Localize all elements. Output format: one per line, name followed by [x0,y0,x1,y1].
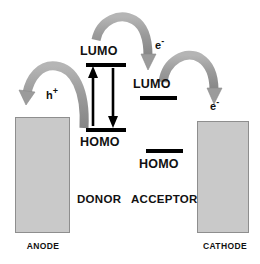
acceptor-lumo-level-line [140,96,177,100]
anode-electrode-block [15,117,70,233]
hole-symbol: h [46,89,53,101]
cathode-label: CATHODE [190,241,260,251]
cathode-electrode-block [197,121,249,233]
electron-charge-1: - [161,36,164,46]
electron-carrier-label-2: e- [210,97,219,112]
straight-arrow-excitation-up [88,66,98,126]
anode-label: ANODE [8,241,78,251]
acceptor-layer-label: ACCEPTOR [131,193,198,205]
donor-lumo-level-line [86,63,126,67]
straight-arrow-recombination-down [108,68,118,128]
acceptor-homo-label: HOMO [139,157,179,171]
energy-level-diagram: LUMO HOMO LUMO HOMO DONOR ACCEPTOR h+ e-… [0,0,260,264]
hole-charge: + [53,86,58,96]
acceptor-lumo-label: LUMO [133,77,171,91]
acceptor-homo-level-line [146,149,183,153]
donor-layer-label: DONOR [77,193,121,205]
donor-homo-level-line [86,128,126,132]
electron-charge-2: - [216,97,219,107]
donor-homo-label: HOMO [80,135,120,149]
electron-carrier-label-1: e- [155,36,164,51]
hole-carrier-label: h+ [46,86,58,101]
donor-lumo-label: LUMO [80,44,118,58]
